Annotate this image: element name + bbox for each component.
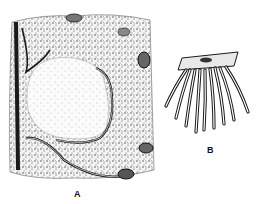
panel-b-tubule-cluster-drawing	[160, 48, 256, 140]
figure: A B	[0, 0, 268, 204]
panel-label-b: B	[207, 145, 214, 155]
panel-a-tissue-drawing	[4, 10, 156, 182]
panel-label-a: A	[74, 189, 81, 199]
